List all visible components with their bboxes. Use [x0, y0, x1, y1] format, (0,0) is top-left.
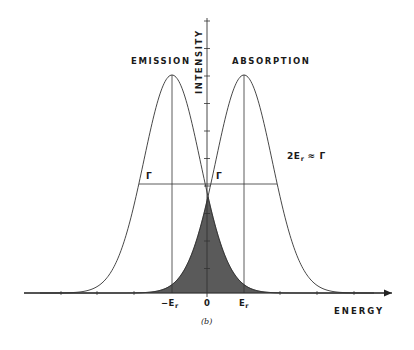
energy-axis-arrow-icon [384, 290, 392, 297]
tick-label-zero: 0 [204, 298, 210, 308]
tick-er-subscript: r [245, 302, 248, 310]
tick-neg-er-text: −E [161, 298, 175, 308]
intensity-axis-label: INTENSITY [194, 29, 204, 94]
gamma-right-label: Γ [216, 171, 222, 181]
tick-label-neg-er: −Er [161, 298, 178, 310]
emission-label: EMISSION [131, 56, 191, 66]
absorption-label: ABSORPTION [232, 56, 310, 66]
energy-axis-label: ENERGY [334, 306, 384, 316]
resonance-diagram: EMISSION ABSORPTION INTENSITY Γ Γ 2Er ≈ … [0, 0, 414, 350]
relation-prefix: 2E [287, 151, 301, 161]
relation-suffix: ≈ Γ [304, 151, 326, 161]
figure-caption: (b) [201, 317, 212, 326]
tick-neg-er-subscript: r [175, 302, 178, 310]
relation-label: 2Er ≈ Γ [287, 151, 326, 163]
gamma-left-label: Γ [146, 171, 152, 181]
tick-label-er: Er [239, 298, 249, 310]
